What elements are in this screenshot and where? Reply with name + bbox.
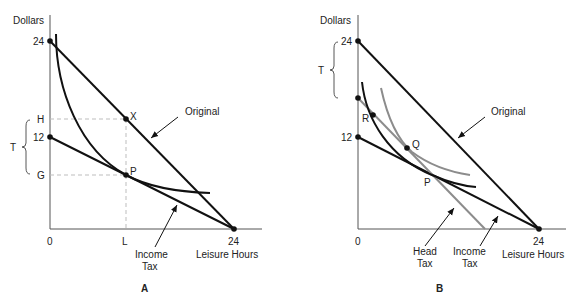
panel-label-b: B (436, 283, 443, 294)
y-tick-12: 12 (341, 132, 353, 143)
point-q (404, 145, 410, 151)
y-tick-12: 12 (33, 132, 45, 143)
original-label: Original (185, 106, 219, 117)
point-24-y (355, 38, 361, 44)
panel-b: Dollars 24 12 T R Q P 0 24 Leisure Hours… (318, 15, 566, 294)
point-head-tax-intercept (355, 95, 361, 101)
head-tax-budget-line (358, 98, 485, 229)
original-budget-line (50, 41, 234, 229)
point-24-x (231, 226, 237, 232)
point-label-p: P (130, 166, 137, 177)
original-label: Original (491, 106, 525, 117)
indifference-curve-low (362, 82, 476, 187)
y-tick-24: 24 (33, 36, 45, 47)
income-tax-label-2: Tax (462, 258, 478, 269)
point-x (123, 116, 129, 122)
indifference-curve-high (381, 88, 470, 175)
y-axis-label: Dollars (13, 15, 44, 26)
income-tax-label-1: Income (135, 249, 168, 260)
original-budget-line (358, 41, 539, 229)
panel-a: Dollars 24 H 12 G T X P 0 L 24 Leisure H… (10, 15, 262, 294)
origin-label: 0 (355, 236, 361, 247)
point-24-y (47, 38, 53, 44)
brace-t (330, 42, 338, 98)
x-tick-24: 24 (533, 236, 545, 247)
head-tax-label-2: Tax (417, 258, 433, 269)
income-tax-arrow (155, 205, 177, 247)
point-24-x (536, 226, 542, 232)
income-tax-label-1: Income (453, 246, 486, 257)
y-tick-g: G (37, 170, 45, 181)
y-tick-h: H (37, 114, 44, 125)
diagram-canvas: Dollars 24 H 12 G T X P 0 L 24 Leisure H… (0, 0, 580, 304)
point-r (370, 112, 376, 118)
brace-t (22, 120, 30, 174)
y-tick-24: 24 (341, 36, 353, 47)
head-tax-arrow (425, 208, 454, 246)
income-tax-label-2: Tax (142, 261, 158, 272)
x-axis-label: Leisure Hours (196, 249, 258, 260)
x-axis-label: Leisure Hours (502, 249, 564, 260)
x-tick-l: L (122, 236, 128, 247)
point-label-r: R (362, 113, 369, 124)
original-arrow (151, 117, 178, 138)
point-label-q: Q (412, 139, 420, 150)
brace-label-t: T (10, 142, 16, 153)
point-label-x: X (130, 111, 137, 122)
original-arrow (458, 117, 485, 138)
point-12-y (355, 134, 361, 140)
brace-label-t: T (318, 65, 324, 76)
panel-label-a: A (141, 283, 148, 294)
origin-label: 0 (47, 236, 53, 247)
y-axis-label: Dollars (320, 15, 351, 26)
x-tick-24: 24 (228, 236, 240, 247)
point-label-p: P (424, 177, 431, 188)
head-tax-label-1: Head (413, 246, 437, 257)
point-p (123, 172, 129, 178)
point-12-y (47, 134, 53, 140)
income-tax-arrow (480, 216, 498, 246)
